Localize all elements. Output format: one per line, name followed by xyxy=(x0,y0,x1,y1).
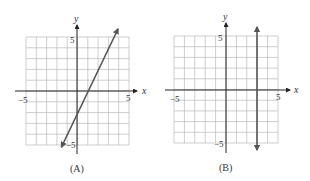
y-axis-label-b: y xyxy=(222,11,228,22)
y-tick-max-a: 5 xyxy=(70,35,75,45)
x-axis-label-b: x xyxy=(293,84,299,95)
y-tick-max-b: 5 xyxy=(218,33,223,43)
x-tick-max-b: 5 xyxy=(276,92,281,102)
y-tick-min-b: −5 xyxy=(214,139,224,149)
figure: y x −5 5 5 −5 (A) y x −5 5 5 −5 (B) xyxy=(0,0,310,181)
y-tick-min-a: −5 xyxy=(66,140,76,150)
graph-a: y x −5 5 5 −5 (A) xyxy=(15,13,147,175)
x-tick-min-a: −5 xyxy=(18,95,28,105)
x-tick-min-b: −5 xyxy=(170,94,180,104)
graph-b: y x −5 5 5 −5 (B) xyxy=(165,11,299,174)
caption-a: (A) xyxy=(70,163,84,175)
x-axis-label-a: x xyxy=(141,85,147,96)
x-tick-max-a: 5 xyxy=(126,93,131,103)
caption-b: (B) xyxy=(219,162,232,174)
y-axis-label-a: y xyxy=(73,13,79,24)
plot-line-a xyxy=(62,29,119,147)
